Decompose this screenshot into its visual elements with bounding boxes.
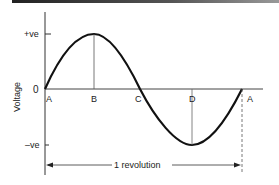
y-axis-label: Voltage xyxy=(12,82,22,112)
point-c-label: C xyxy=(135,94,142,104)
arrow-right-icon xyxy=(234,163,241,168)
revolution-label: 1 revolution xyxy=(114,160,161,170)
point-d-label: D xyxy=(189,94,196,104)
point-b-label: B xyxy=(91,94,97,104)
point-a-label: A xyxy=(46,94,52,104)
negative-label: –ve xyxy=(25,140,40,150)
positive-label: +ve xyxy=(24,29,39,39)
point-a-end-label: A xyxy=(247,94,253,104)
arrow-left-icon xyxy=(46,163,53,168)
zero-label: 0 xyxy=(33,84,39,95)
sine-wave-diagram: +ve 0 –ve Voltage A B C D A 1 revolution xyxy=(0,0,279,185)
